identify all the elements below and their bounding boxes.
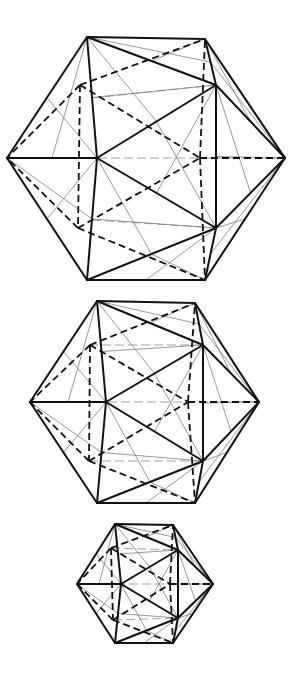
visible-edge — [195, 402, 259, 503]
construction-dash-line — [111, 548, 178, 550]
construction-line — [97, 158, 152, 254]
construction-line — [47, 158, 97, 219]
visible-edge — [203, 402, 259, 461]
construction-line — [64, 402, 107, 453]
visible-edge — [216, 85, 285, 158]
visible-edge — [97, 85, 216, 158]
construction-line — [150, 482, 195, 503]
visible-edge — [115, 618, 178, 643]
visible-edge — [115, 524, 178, 550]
visible-edge — [7, 158, 87, 280]
visible-edge — [178, 550, 213, 584]
construction-line — [157, 85, 217, 193]
visible-edge — [106, 345, 203, 402]
visible-edge — [97, 301, 195, 303]
visible-edge — [77, 524, 115, 584]
construction-dash-line — [92, 220, 216, 228]
icosahedron-small — [77, 524, 213, 643]
visible-edge — [87, 228, 216, 280]
construction-line — [155, 345, 204, 432]
construction-line — [68, 301, 97, 402]
construction-line — [118, 550, 178, 554]
hidden-edge — [30, 345, 90, 402]
visible-edge — [97, 461, 203, 503]
visible-edge — [115, 524, 173, 525]
construction-line — [96, 554, 121, 584]
visible-edge — [195, 303, 259, 402]
construction-line — [152, 254, 206, 280]
visible-edge — [77, 584, 115, 643]
visible-edge — [30, 402, 97, 503]
visible-edge — [30, 301, 97, 402]
construction-line — [96, 584, 121, 614]
hidden-edge — [77, 584, 113, 620]
construction-line — [118, 614, 178, 619]
construction-dash-line — [113, 618, 178, 620]
construction-line — [102, 345, 204, 352]
construction-line — [211, 62, 286, 158]
hidden-edge — [113, 584, 170, 620]
hidden-edge — [90, 303, 195, 345]
construction-line — [195, 303, 231, 374]
construction-line — [211, 158, 286, 254]
visible-edge — [203, 345, 259, 402]
construction-line — [30, 402, 102, 453]
hidden-edge — [7, 158, 78, 228]
construction-line — [216, 85, 251, 193]
construction-line — [102, 453, 204, 462]
hidden-edge — [80, 39, 205, 85]
visible-edge — [216, 158, 285, 228]
construction-line — [199, 324, 259, 402]
construction-line — [87, 37, 211, 62]
hidden-edge — [200, 39, 205, 158]
visible-edge — [97, 158, 216, 228]
visible-edge — [178, 584, 213, 618]
visible-edge — [106, 402, 203, 461]
construction-line — [205, 39, 251, 122]
construction-line — [199, 402, 259, 482]
visible-edge — [7, 37, 87, 158]
hidden-edge — [30, 402, 89, 461]
hidden-edge — [7, 85, 80, 158]
icosahedron-medium — [30, 301, 259, 503]
hidden-edge — [78, 85, 80, 228]
icosahedron-diagram — [0, 0, 296, 700]
icosahedron-large — [7, 37, 285, 280]
visible-edge — [97, 301, 203, 345]
visible-edge — [87, 37, 205, 39]
